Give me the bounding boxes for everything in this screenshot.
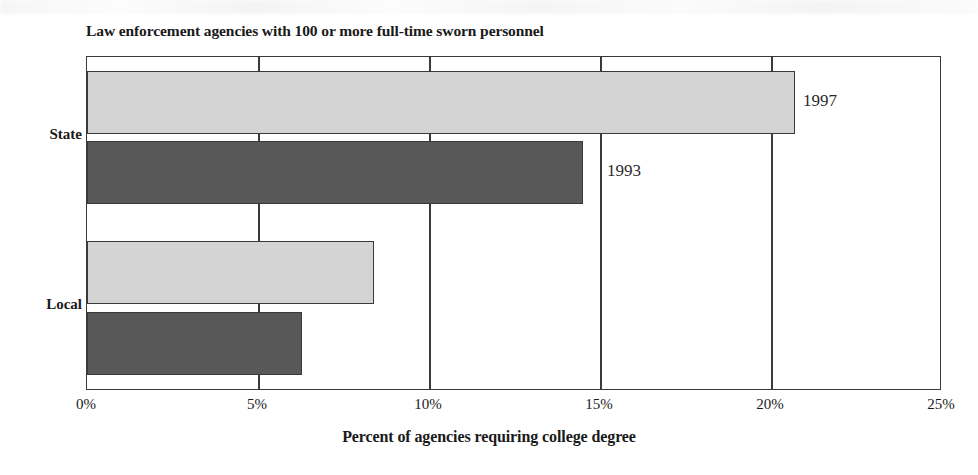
xtick-15: 15% <box>585 396 613 413</box>
bar-label-1993: 1993 <box>607 161 641 181</box>
chart-title: Law enforcement agencies with 100 or mor… <box>86 22 544 40</box>
xtick-10: 10% <box>414 396 442 413</box>
bar-label-1997: 1997 <box>803 91 837 111</box>
xtick-20: 20% <box>756 396 784 413</box>
category-label-state: State <box>12 126 82 143</box>
bar-local-1997 <box>87 241 374 304</box>
bar-state-1993 <box>87 141 583 204</box>
xtick-5: 5% <box>247 396 267 413</box>
x-axis-title: Percent of agencies requiring college de… <box>0 428 978 446</box>
xtick-0: 0% <box>76 396 96 413</box>
bar-local-1993 <box>87 312 302 375</box>
xtick-25: 25% <box>927 396 955 413</box>
category-label-local: Local <box>12 296 82 313</box>
bar-chart-figure: Law enforcement agencies with 100 or mor… <box>0 0 978 475</box>
bar-state-1997 <box>87 71 795 134</box>
plot-area: 1997 1993 <box>86 56 941 390</box>
